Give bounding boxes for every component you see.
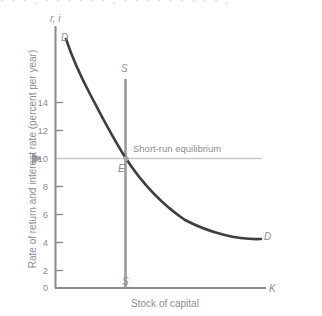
supply-line-label-top: S bbox=[121, 64, 128, 74]
demand-curve-label-top: D bbox=[61, 33, 68, 43]
figure-root: · · · , · · · · · · , · · · · · · · · · … bbox=[0, 0, 322, 316]
chart-canvas bbox=[0, 0, 322, 316]
y-tick-label-0: 0 bbox=[34, 283, 48, 293]
supply-line-label-bottom: S bbox=[122, 277, 129, 287]
equilibrium-point-marker bbox=[123, 156, 128, 161]
y-axis-title: Rate of return and interest rate (percen… bbox=[28, 34, 38, 284]
x-axis-variable-label: K bbox=[269, 284, 276, 294]
equilibrium-point-label: E bbox=[118, 164, 125, 174]
equilibrium-annotation-text: Short-run equilibrium bbox=[133, 144, 221, 154]
demand-curve-label-bottom: D bbox=[264, 232, 271, 242]
x-axis-title: Stock of capital bbox=[60, 299, 270, 309]
demand-curve bbox=[66, 39, 261, 239]
y-axis-variable-label: r, i bbox=[50, 14, 61, 24]
